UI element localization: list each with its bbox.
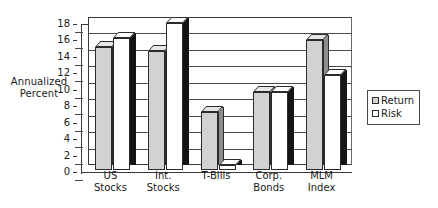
x-axis-label-line: MLM [295, 170, 348, 182]
bar-face [95, 47, 112, 170]
bar-face [166, 23, 183, 170]
legend-item-risk: Risk [372, 107, 414, 120]
y-axis-tick-mark [73, 106, 77, 107]
x-axis-label-line: Stocks [137, 182, 190, 194]
wall-rule [75, 65, 83, 66]
legend: Return Risk [367, 90, 420, 125]
bar-side [341, 70, 347, 165]
wall-rule [75, 180, 83, 181]
y-axis-tick-label: 14 [48, 52, 70, 62]
legend-item-return: Return [372, 94, 414, 107]
x-axis-label-line: Index [295, 182, 348, 194]
x-axis-label-1: Int.Stocks [137, 170, 190, 194]
bar-side [183, 18, 189, 165]
plot-area [88, 17, 352, 165]
bar-face [253, 92, 270, 170]
y-axis-tick-mark [73, 90, 77, 91]
bar-side [288, 87, 294, 165]
bar-return-4 [306, 40, 323, 170]
y-axis-tick-label: 6 [48, 118, 70, 128]
wall-rule [75, 48, 83, 49]
y-axis-tick-mark [73, 139, 77, 140]
y-axis-tick-mark [73, 172, 77, 173]
y-axis-tick-label: 4 [48, 134, 70, 144]
bar-return-1 [148, 51, 165, 170]
bar-risk-4 [324, 75, 341, 170]
bar-risk-1 [166, 23, 183, 170]
x-axis-label-4: MLMIndex [295, 170, 348, 194]
bar-face [271, 92, 288, 170]
bar-face [113, 38, 130, 170]
white-swatch-icon [372, 110, 379, 117]
x-axis-label-line: Stocks [84, 182, 137, 194]
bar-side [218, 107, 224, 165]
axis-wall [81, 24, 88, 172]
y-axis-tick-label: 18 [48, 19, 70, 29]
x-axis-label-2: T-Bills [190, 170, 243, 182]
wall-rule [75, 131, 83, 132]
bar-risk-0 [113, 38, 130, 170]
gray-swatch-icon [372, 97, 379, 104]
x-axis-label-line: Bonds [242, 182, 295, 194]
x-axis-label-line: US [84, 170, 137, 182]
y-axis-tick-mark [73, 123, 77, 124]
y-axis-tick-mark [73, 24, 77, 25]
bar-face [148, 51, 165, 170]
wall-rule [75, 81, 83, 82]
x-axis-label-line: Corp. [242, 170, 295, 182]
y-axis-tick-mark [73, 73, 77, 74]
bar-face [306, 40, 323, 170]
y-axis-tick-label: 10 [48, 85, 70, 95]
x-axis-label-line: Int. [137, 170, 190, 182]
x-axis-label-3: Corp.Bonds [242, 170, 295, 194]
wall-rule [75, 98, 83, 99]
legend-label-return: Return [381, 94, 414, 107]
x-axis-label-line: T-Bills [190, 170, 243, 182]
bar-return-2 [201, 112, 218, 170]
y-axis-tick-mark [73, 57, 77, 58]
bar-face [324, 75, 341, 170]
y-axis-tick-label: 2 [48, 151, 70, 161]
chart-figure: Annualized Percent 181614121086420 USSto… [0, 0, 438, 208]
wall-rule [75, 114, 83, 115]
bar-return-0 [95, 47, 112, 170]
wall-rule [75, 32, 83, 33]
y-axis-tick-label: 0 [48, 167, 70, 177]
bar-side [130, 33, 136, 165]
y-axis-tick-mark [73, 40, 77, 41]
y-axis-tick-label: 16 [48, 35, 70, 45]
y-axis-tick-mark [73, 156, 77, 157]
bar-face [201, 112, 218, 170]
x-axis-label-0: USStocks [84, 170, 137, 194]
wall-rule [75, 147, 83, 148]
bar-risk-3 [271, 92, 288, 170]
legend-label-risk: Risk [381, 107, 402, 120]
bar-return-3 [253, 92, 270, 170]
y-axis-tick-label: 12 [48, 68, 70, 78]
y-axis-tick-label: 8 [48, 101, 70, 111]
